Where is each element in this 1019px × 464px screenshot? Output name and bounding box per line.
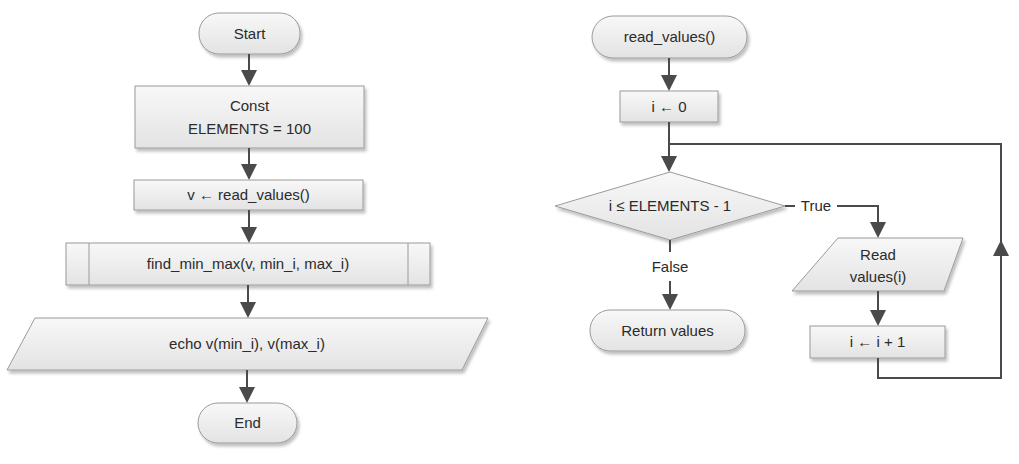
arrow-down-icon [240, 302, 256, 318]
assign-process-box: v ← read_values() [134, 180, 363, 210]
read-values-flowchart: read_values() i ← 0 i ≤ ELEMENTS - 1 Tru… [555, 16, 1009, 378]
arrow-down-icon [662, 294, 678, 310]
arrow-down-icon [870, 222, 886, 238]
input-io-box: Read values(i) [792, 238, 963, 291]
end-label: End [234, 414, 261, 431]
false-label: False [652, 258, 689, 275]
arrow-down-icon [241, 70, 257, 86]
init-process-box: i ← 0 [620, 91, 718, 122]
edge-output-to-end [239, 370, 255, 403]
const-keyword: Const [230, 97, 270, 114]
edge-const-to-assign [241, 148, 257, 180]
decision-condition: i ≤ ELEMENTS - 1 [609, 197, 731, 214]
edge-start-to-const [241, 54, 257, 86]
arrow-down-icon [661, 156, 677, 172]
init-label: i ← 0 [651, 98, 686, 115]
subroutine-box: find_min_max(v, min_i, max_i) [66, 243, 430, 285]
edge-assign-to-subroutine [241, 210, 257, 243]
start-label: Start [234, 25, 267, 42]
input-label-line2: values(i) [850, 268, 907, 285]
end-terminal: End [198, 403, 297, 443]
assign-label: v ← read_values() [187, 186, 310, 203]
const-process-box: Const ELEMENTS = 100 [135, 86, 364, 148]
increment-label: i ← i + 1 [850, 333, 905, 350]
edge-input-to-increment [870, 291, 886, 326]
arrow-down-icon [870, 310, 886, 326]
edge-subroutine-to-output [240, 285, 256, 318]
output-io-box: echo v(min_i), v(max_i) [7, 318, 488, 370]
loop-decision-diamond: i ≤ ELEMENTS - 1 [555, 172, 785, 240]
arrow-up-icon [993, 240, 1009, 256]
input-label-line1: Read [860, 246, 896, 263]
output-label: echo v(min_i), v(max_i) [169, 335, 325, 352]
edge-false-branch: False [652, 240, 689, 310]
return-terminal: Return values [590, 310, 745, 351]
arrow-down-icon [241, 164, 257, 180]
const-declaration: ELEMENTS = 100 [188, 120, 311, 137]
increment-process-box: i ← i + 1 [810, 326, 945, 358]
arrow-down-icon [241, 227, 257, 243]
true-label: True [801, 197, 831, 214]
flowchart-diagram: Start Const ELEMENTS = 100 v ← read_valu… [0, 0, 1019, 464]
return-label: Return values [621, 322, 714, 339]
edge-init-to-decision [661, 122, 677, 172]
main-flowchart: Start Const ELEMENTS = 100 v ← read_valu… [7, 13, 488, 443]
subroutine-label: find_min_max(v, min_i, max_i) [147, 255, 349, 272]
read-values-label: read_values() [624, 28, 716, 45]
edge-start-to-init [661, 58, 677, 91]
start-terminal: Start [199, 13, 300, 54]
edge-true-branch: True [785, 197, 886, 238]
arrow-down-icon [661, 75, 677, 91]
arrow-down-icon [239, 387, 255, 403]
read-values-terminal: read_values() [592, 16, 747, 58]
